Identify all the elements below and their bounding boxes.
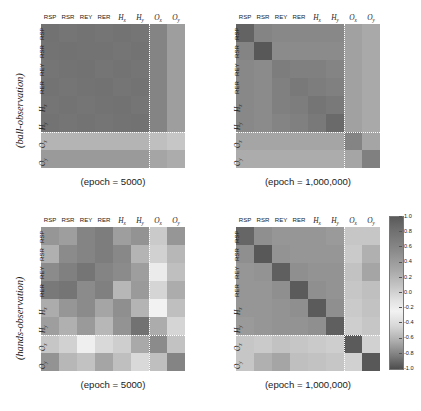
column-label-rer: RER — [290, 216, 308, 223]
heatmap-cell — [113, 42, 131, 60]
heatmap-cell — [149, 78, 167, 96]
heatmap-cell — [77, 263, 95, 281]
heatmap-cell — [95, 24, 113, 42]
heatmap-cell — [77, 299, 95, 317]
heatmap-cell — [254, 114, 272, 132]
heatmap-cell — [59, 78, 77, 96]
heatmap-cell — [149, 132, 167, 150]
column-label-ox: Ox — [344, 13, 362, 23]
heatmap-cell — [344, 114, 362, 132]
heatmap-cell — [308, 317, 326, 335]
heatmap-cell — [362, 263, 380, 281]
heatmap-cell — [362, 353, 380, 371]
heatmap-cell — [77, 96, 95, 114]
heatmap-cell — [113, 96, 131, 114]
row-label-ox: Ox — [38, 140, 48, 148]
heatmap-cell — [59, 24, 77, 42]
heatmap-cell — [131, 78, 149, 96]
heatmap-cell — [272, 132, 290, 150]
heatmap-cell — [254, 335, 272, 353]
colorbar-tick-mark — [399, 307, 402, 308]
row-label-rsr: RSR — [233, 248, 240, 261]
heatmap-cell — [149, 227, 167, 245]
heatmap-cell — [344, 78, 362, 96]
heatmap-cell — [113, 227, 131, 245]
colorbar-tick-label: -0.4 — [404, 319, 414, 325]
heatmap-cell — [149, 353, 167, 371]
heatmap-cell — [77, 335, 95, 353]
heatmap-cell — [254, 281, 272, 299]
row-label-hy: Hy — [38, 122, 48, 130]
heatmap-cell — [131, 353, 149, 371]
heatmap-cell — [254, 78, 272, 96]
heatmap-cell — [254, 24, 272, 42]
heatmap-cell — [290, 281, 308, 299]
caption-top-right: (epoch = 1,000,000) — [236, 176, 380, 187]
heatmap-cell — [272, 281, 290, 299]
y-axis-label-hands-observation: (hands-observation) — [14, 277, 25, 360]
heatmap-cell — [344, 317, 362, 335]
heatmap-cell — [167, 24, 185, 42]
heatmap-cell — [95, 353, 113, 371]
heatmap-cell — [362, 24, 380, 42]
heatmap-cell — [59, 353, 77, 371]
heatmap-cell — [77, 42, 95, 60]
heatmap-cell — [167, 227, 185, 245]
heatmap-cell — [308, 132, 326, 150]
column-label-hx: Hx — [308, 216, 326, 226]
row-label-rey: REY — [38, 63, 45, 76]
heatmap-cell — [326, 245, 344, 263]
heatmap-cell — [149, 24, 167, 42]
heatmap-grid-hands-epoch-5000[interactable] — [41, 227, 185, 371]
heatmap-cell — [149, 42, 167, 60]
heatmap-cell — [326, 317, 344, 335]
colorbar-tick-mark — [399, 216, 402, 217]
column-label-hy: Hy — [326, 13, 344, 23]
column-label-rsp: RSP — [41, 13, 59, 20]
column-label-rsp: RSP — [41, 216, 59, 223]
column-label-oy: Oy — [167, 13, 185, 23]
heatmap-cell — [59, 114, 77, 132]
heatmap-cell — [290, 263, 308, 281]
heatmap-cell — [131, 263, 149, 281]
heatmap-grid-hands-epoch-1000000[interactable] — [236, 227, 380, 371]
heatmap-cell — [362, 78, 380, 96]
row-label-rsp: RSP — [233, 230, 240, 243]
row-label-hx: Hx — [233, 307, 243, 315]
heatmap-cell — [149, 150, 167, 168]
heatmap-cell — [131, 132, 149, 150]
heatmap-cell — [344, 263, 362, 281]
heatmap-grid-ball-epoch-5000[interactable] — [41, 24, 185, 168]
heatmap-cell — [272, 263, 290, 281]
heatmap-cell — [59, 335, 77, 353]
heatmap-cell — [290, 150, 308, 168]
heatmap-cell — [308, 96, 326, 114]
heatmap-cell — [113, 299, 131, 317]
column-label-ox: Ox — [149, 13, 167, 23]
heatmap-cell — [362, 114, 380, 132]
colorbar-tick-label: -1.0 — [404, 365, 414, 371]
heatmap-cell — [344, 24, 362, 42]
heatmap-grid-ball-epoch-1000000[interactable] — [236, 24, 380, 168]
row-label-hx: Hx — [233, 104, 243, 112]
row-label-rer: RER — [233, 284, 240, 297]
row-label-rsr: RSR — [38, 248, 45, 261]
heatmap-cell — [272, 78, 290, 96]
heatmap-cell — [59, 132, 77, 150]
heatmap-cell — [272, 42, 290, 60]
heatmap-cell — [131, 150, 149, 168]
column-label-rey: REY — [77, 13, 95, 20]
heatmap-cell — [272, 150, 290, 168]
heatmap-cell — [59, 150, 77, 168]
heatmap-cell — [362, 42, 380, 60]
heatmap-cell — [167, 317, 185, 335]
heatmap-cell — [254, 132, 272, 150]
row-label-ox: Ox — [233, 343, 243, 351]
heatmap-cell — [167, 132, 185, 150]
heatmap-cell — [290, 299, 308, 317]
heatmap-cell — [131, 60, 149, 78]
heatmap-cell — [149, 335, 167, 353]
heatmap-cell — [362, 96, 380, 114]
heatmap-cell — [95, 96, 113, 114]
heatmap-cell — [113, 60, 131, 78]
